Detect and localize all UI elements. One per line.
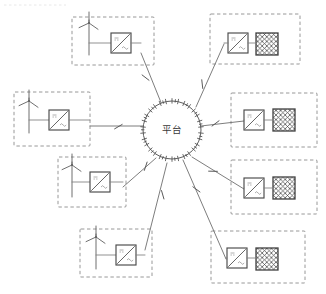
scan-artifact-layer xyxy=(0,0,326,294)
diagram-canvas: 平台 xyxy=(0,0,326,294)
